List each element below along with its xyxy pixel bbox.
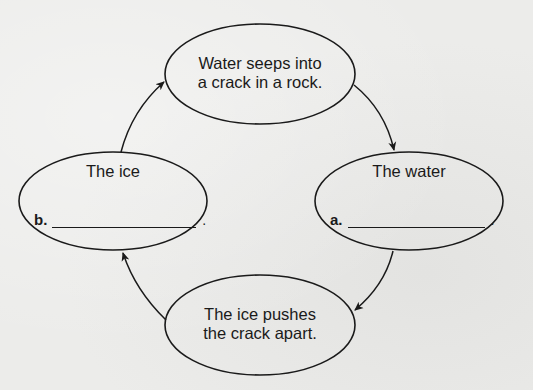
blank-a-answer-line[interactable]: [348, 215, 485, 228]
arrow-top-to-right: [354, 85, 394, 150]
arrow-left-to-top: [121, 82, 164, 152]
node-top-line-2: a crack in a rock.: [180, 73, 340, 92]
node-left-label: The ice: [53, 162, 173, 181]
node-top-line-1: Water seeps into: [180, 54, 340, 73]
node-right-blank: a. .: [330, 211, 494, 228]
blank-b-answer-line[interactable]: [52, 215, 196, 228]
arrow-right-to-bottom: [355, 251, 393, 310]
blank-b-period: .: [202, 212, 206, 228]
blank-a-letter: a.: [330, 211, 343, 228]
node-left-blank: b. .: [34, 211, 206, 228]
node-bottom-line-1: The ice pushes: [180, 305, 340, 324]
node-bottom-line-2: the crack apart.: [180, 324, 340, 343]
node-right-label: The water: [349, 162, 469, 181]
blank-a-period: .: [491, 212, 495, 228]
node-top-text: Water seeps into a crack in a rock.: [180, 54, 340, 92]
node-bottom-text: The ice pushes the crack apart.: [180, 305, 340, 343]
arrow-bottom-to-left: [123, 253, 166, 320]
blank-b-letter: b.: [34, 211, 47, 228]
